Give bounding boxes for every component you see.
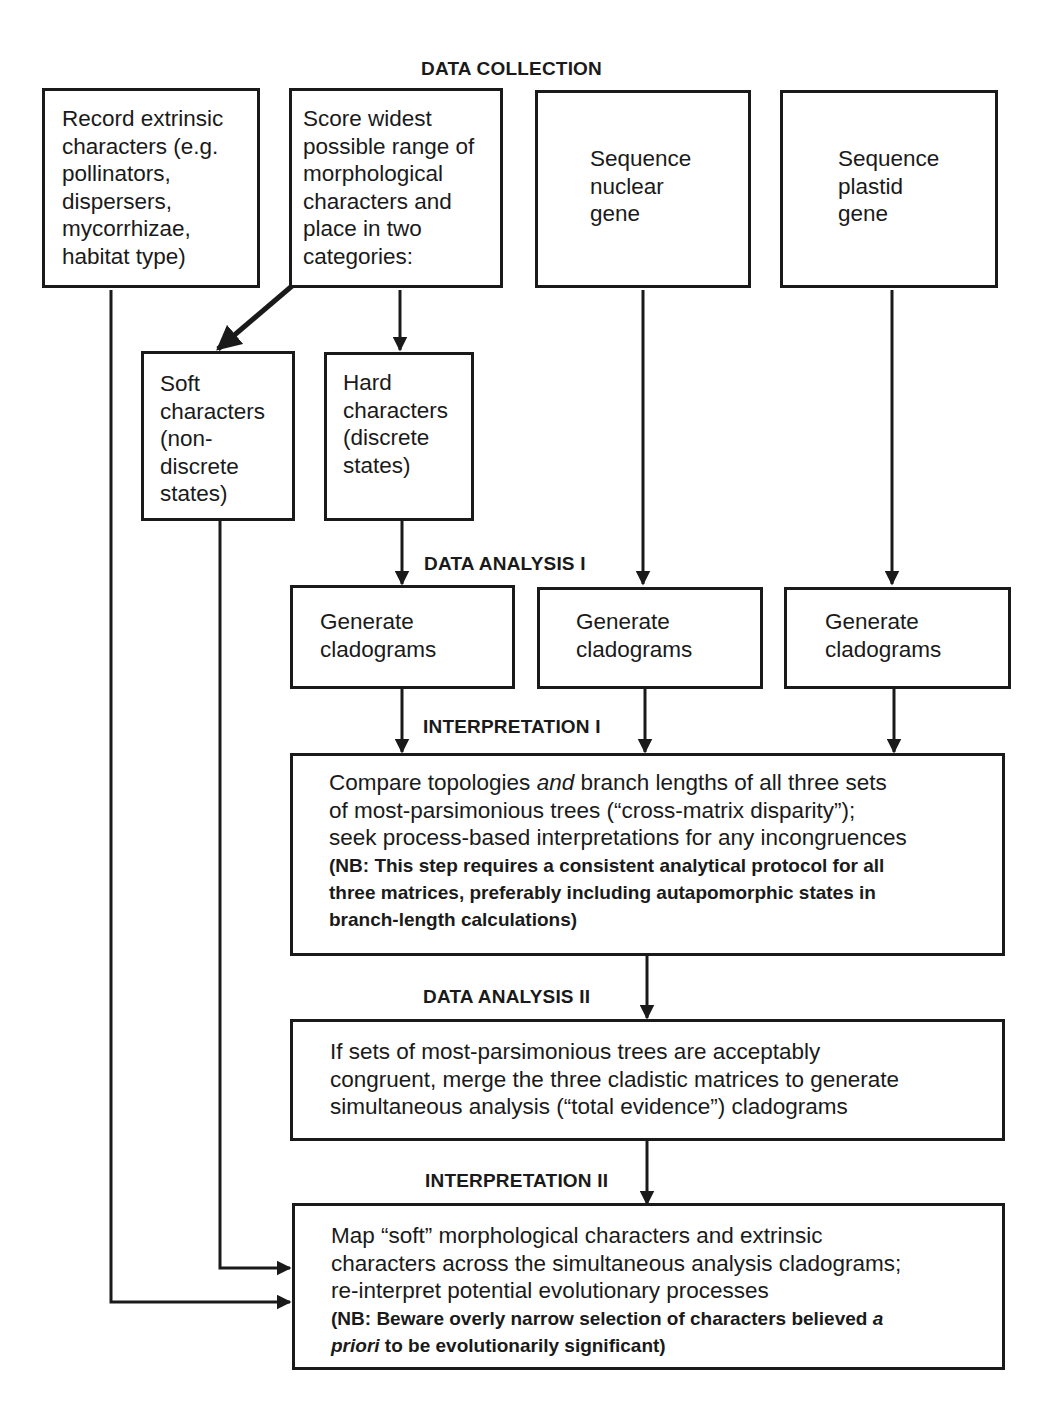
box-score-morphological: Score widest possible range of morpholog…: [289, 88, 503, 288]
box-soft-characters: Soft characters (non- discrete states): [141, 351, 295, 521]
box-merge-matrices-text: If sets of most-parsimonious trees are a…: [293, 1022, 1002, 1121]
stage-label-data-collection: DATA COLLECTION: [421, 58, 602, 80]
box-sequence-plastid-text: Sequence plastid gene: [783, 93, 995, 228]
compare-nb-note: (NB: This step requires a consistent ana…: [329, 852, 1002, 933]
box-generate-cladograms-3-text: Generate cladograms: [787, 590, 1008, 663]
box-sequence-plastid: Sequence plastid gene: [780, 90, 998, 288]
box-hard-characters: Hard characters (discrete states): [324, 352, 474, 521]
box-generate-cladograms-2-text: Generate cladograms: [540, 590, 760, 663]
box-generate-cladograms-3: Generate cladograms: [784, 587, 1011, 689]
map-main-text: Map “soft” morphological characters and …: [331, 1222, 1002, 1305]
arrow-soft-to-map: [220, 520, 290, 1268]
map-nb-note: (NB: Beware overly narrow selection of c…: [331, 1305, 1002, 1359]
box-record-extrinsic-text: Record extrinsic characters (e.g. pollin…: [45, 91, 257, 270]
box-generate-cladograms-1: Generate cladograms: [290, 585, 515, 689]
box-soft-characters-text: Soft characters (non- discrete states): [144, 354, 292, 508]
box-record-extrinsic: Record extrinsic characters (e.g. pollin…: [42, 88, 260, 288]
stage-label-interpretation-2: INTERPRETATION II: [425, 1170, 608, 1192]
box-generate-cladograms-1-text: Generate cladograms: [293, 588, 512, 663]
box-compare-topologies: Compare topologies and branch lengths of…: [290, 753, 1005, 956]
box-score-morphological-text: Score widest possible range of morpholog…: [292, 91, 500, 270]
box-sequence-nuclear: Sequence nuclear gene: [535, 90, 751, 288]
compare-main-text: Compare topologies and branch lengths of…: [329, 769, 1002, 852]
stage-label-data-analysis-1: DATA ANALYSIS I: [424, 553, 586, 575]
box-merge-matrices: If sets of most-parsimonious trees are a…: [290, 1019, 1005, 1141]
box-hard-characters-text: Hard characters (discrete states): [327, 355, 471, 479]
box-map-characters: Map “soft” morphological characters and …: [292, 1203, 1005, 1370]
box-generate-cladograms-2: Generate cladograms: [537, 587, 763, 689]
arrow-morph-to-soft: [218, 286, 292, 349]
box-sequence-nuclear-text: Sequence nuclear gene: [538, 93, 748, 228]
stage-label-data-analysis-2: DATA ANALYSIS II: [423, 986, 590, 1008]
stage-label-interpretation-1: INTERPRETATION I: [423, 716, 601, 738]
